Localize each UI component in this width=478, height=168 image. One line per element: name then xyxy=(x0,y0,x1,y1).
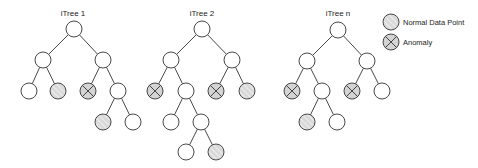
legend-swatch xyxy=(383,34,399,50)
tree-edge xyxy=(177,35,197,55)
tree-node-normal xyxy=(50,83,66,99)
tree-edge xyxy=(296,68,304,84)
tree-edge xyxy=(356,68,364,84)
tree-edge xyxy=(371,68,379,84)
legend: Normal Data PointAnomaly xyxy=(383,14,465,50)
node-circle xyxy=(299,53,315,69)
tree-edge xyxy=(121,98,129,115)
tree-edge xyxy=(49,35,69,55)
legend-item-normal: Normal Data Point xyxy=(383,14,465,30)
tree-node-empty xyxy=(66,21,82,37)
normal-node-icon xyxy=(383,14,399,30)
tree-node-empty xyxy=(95,52,111,68)
tree-edge xyxy=(313,36,333,56)
tree-node-normal xyxy=(95,114,111,130)
tree-node-empty xyxy=(314,83,330,99)
tree-node-empty xyxy=(194,21,210,37)
tree-node-anomaly xyxy=(147,83,163,99)
tree-node-empty xyxy=(35,52,51,68)
itree-1: iTree 1 xyxy=(21,9,141,130)
tree-edge xyxy=(106,98,114,115)
normal-node-icon xyxy=(299,114,315,130)
tree-node-empty xyxy=(125,114,141,130)
node-circle xyxy=(329,114,345,130)
node-circle xyxy=(125,114,141,130)
normal-node-icon xyxy=(50,83,66,99)
tree-node-empty xyxy=(178,83,194,99)
node-circle xyxy=(95,52,111,68)
legend-label: Anomaly xyxy=(403,38,432,47)
node-circle xyxy=(110,83,126,99)
normal-node-icon xyxy=(95,114,111,130)
normal-node-icon xyxy=(208,144,224,160)
tree-edge xyxy=(79,35,97,54)
legend-label: Normal Data Point xyxy=(403,18,465,27)
tree-edge xyxy=(106,67,114,84)
tree-title: iTree 1 xyxy=(61,9,86,18)
node-circle xyxy=(374,83,390,99)
isolation-forest-diagram: iTree 1iTree 2iTree n Normal Data PointA… xyxy=(0,0,478,168)
node-circle xyxy=(359,53,375,69)
node-circle xyxy=(66,21,82,37)
node-circle xyxy=(178,144,194,160)
node-circle xyxy=(193,114,209,130)
tree-node-empty xyxy=(21,83,37,99)
node-circle xyxy=(194,21,210,37)
trees-layer: iTree 1iTree 2iTree n xyxy=(21,9,390,160)
tree-node-normal xyxy=(239,83,255,99)
tree-edge xyxy=(208,35,227,55)
tree-node-empty xyxy=(163,114,179,130)
tree-edge xyxy=(189,98,197,115)
tree-node-normal xyxy=(208,144,224,160)
node-circle xyxy=(314,83,330,99)
tree-node-normal xyxy=(299,114,315,130)
tree-node-empty xyxy=(374,83,390,99)
tree-node-anomaly xyxy=(80,83,96,99)
tree-node-anomaly xyxy=(344,83,360,99)
tree-edge xyxy=(343,36,361,55)
node-circle xyxy=(163,52,179,68)
tree-edge xyxy=(174,67,182,84)
tree-edge xyxy=(91,67,99,84)
normal-node-icon xyxy=(239,83,255,99)
tree-title: iTree 2 xyxy=(190,9,215,18)
tree-node-anomaly xyxy=(208,83,224,99)
tree-edge xyxy=(235,67,243,84)
tree-edge xyxy=(32,67,39,83)
tree-edge xyxy=(311,68,319,84)
tree-node-empty xyxy=(224,52,240,68)
tree-node-empty xyxy=(359,53,375,69)
tree-node-empty xyxy=(330,22,346,38)
tree-edge xyxy=(174,98,182,115)
node-circle xyxy=(178,83,194,99)
tree-node-empty xyxy=(178,144,194,160)
tree-node-empty xyxy=(299,53,315,69)
node-circle xyxy=(330,22,346,38)
tree-edge xyxy=(325,98,333,115)
tree-node-empty xyxy=(329,114,345,130)
legend-swatch xyxy=(383,14,399,30)
tree-node-empty xyxy=(193,114,209,130)
node-circle xyxy=(35,52,51,68)
tree-node-empty xyxy=(110,83,126,99)
tree-edge xyxy=(190,129,198,145)
itree-3: iTree n xyxy=(284,9,390,130)
node-circle xyxy=(163,114,179,130)
tree-edge xyxy=(310,98,318,115)
node-circle xyxy=(21,83,37,99)
itree-2: iTree 2 xyxy=(147,9,255,160)
tree-title: iTree n xyxy=(326,9,351,18)
tree-edge xyxy=(220,67,229,84)
tree-edge xyxy=(159,67,168,84)
tree-edge xyxy=(46,67,54,84)
tree-node-empty xyxy=(163,52,179,68)
tree-edge xyxy=(205,129,213,145)
legend-item-anomaly: Anomaly xyxy=(383,34,432,50)
node-circle xyxy=(224,52,240,68)
tree-node-anomaly xyxy=(284,83,300,99)
